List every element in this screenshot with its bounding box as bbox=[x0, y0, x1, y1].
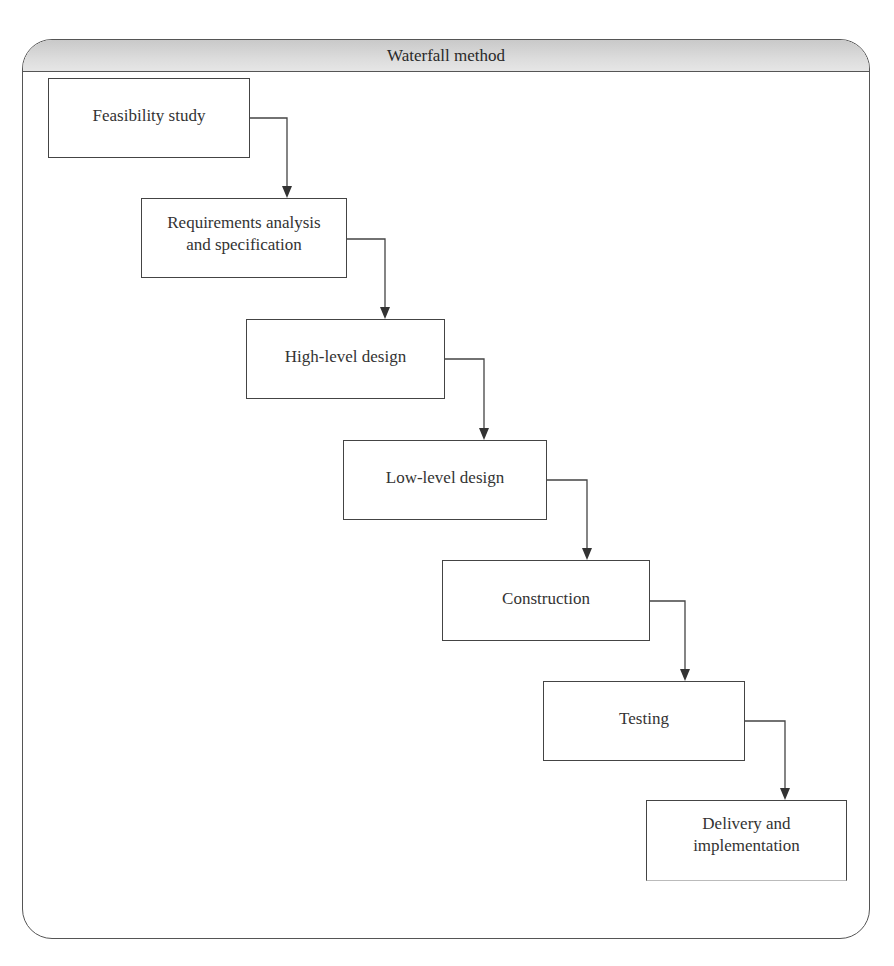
step-label: Construction bbox=[502, 588, 590, 610]
step-label: Delivery and implementation bbox=[693, 813, 800, 857]
step-construction: Construction bbox=[442, 560, 650, 641]
diagram-title: Waterfall method bbox=[23, 40, 869, 72]
step-label: High-level design bbox=[285, 346, 406, 368]
step-label: Low-level design bbox=[386, 467, 505, 489]
step-feasibility-study: Feasibility study bbox=[48, 78, 250, 158]
step-requirements-analysis: Requirements analysis and specification bbox=[141, 198, 347, 278]
step-label: Testing bbox=[619, 708, 669, 730]
step-testing: Testing bbox=[543, 681, 745, 761]
step-label: Feasibility study bbox=[93, 105, 206, 127]
step-label: Requirements analysis and specification bbox=[167, 212, 320, 256]
step-low-level-design: Low-level design bbox=[343, 440, 547, 520]
step-delivery-implementation: Delivery and implementation bbox=[646, 800, 847, 881]
step-high-level-design: High-level design bbox=[246, 319, 445, 399]
